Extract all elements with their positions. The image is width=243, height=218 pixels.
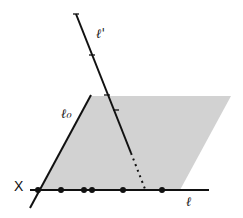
diagram-canvas: ℓ' ℓ₀ X ℓ (0, 0, 243, 218)
label-l0: ℓ₀ (61, 106, 72, 121)
label-x: X (14, 178, 24, 194)
label-l: ℓ (186, 194, 192, 209)
label-l-prime: ℓ' (96, 26, 105, 41)
